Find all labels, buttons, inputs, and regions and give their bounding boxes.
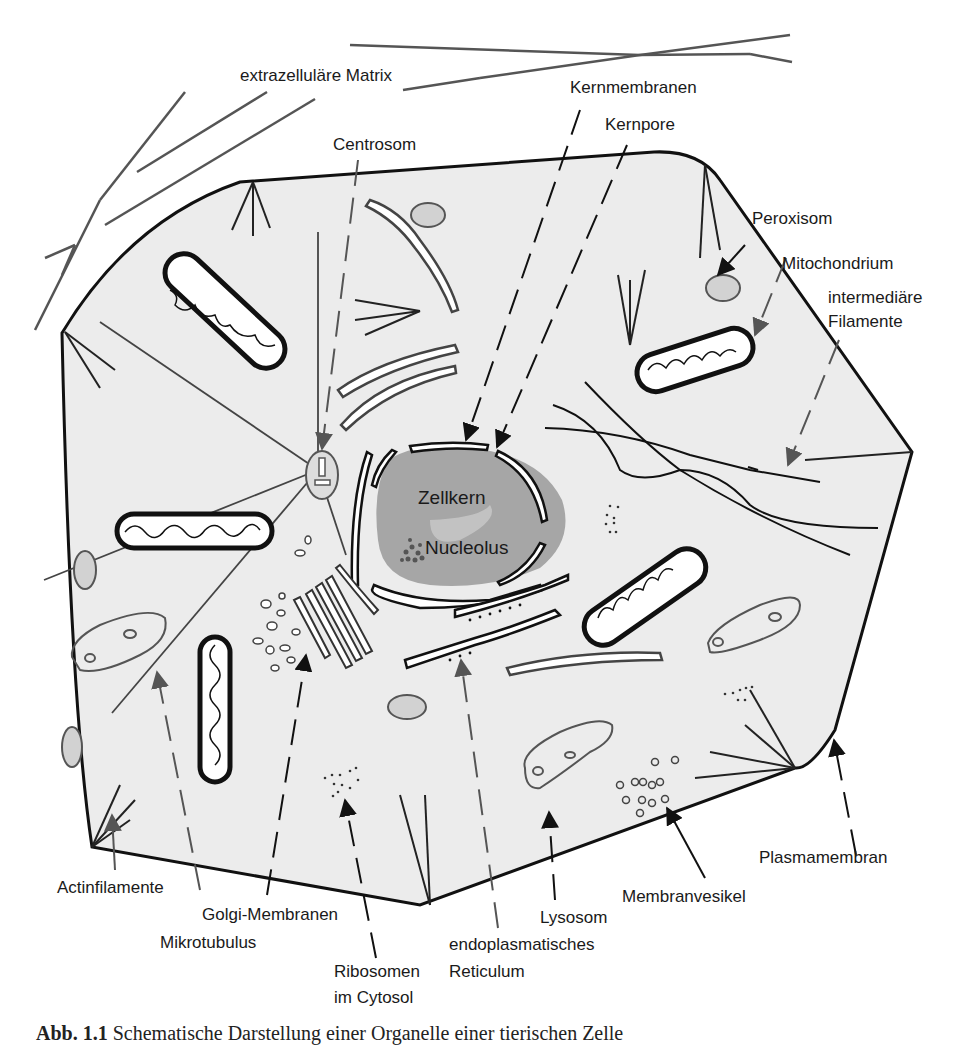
label-membrane-vesicle: Membranvesikel <box>622 887 746 907</box>
label-extracellular-matrix: extrazelluläre Matrix <box>240 66 392 86</box>
label-intermediate-filaments-1: intermediäre <box>828 288 923 308</box>
label-actin-filaments: Actinfilamente <box>57 878 164 898</box>
label-microtubule: Mikrotubulus <box>160 933 256 953</box>
label-nuclear-membranes: Kernmembranen <box>570 78 697 98</box>
label-lysosome: Lysosom <box>540 908 607 928</box>
label-peroxisome: Peroxisom <box>752 209 832 229</box>
caption-text: Schematische Darstellung einer Organelle… <box>113 1022 624 1044</box>
label-nuclear-pore: Kernpore <box>605 115 675 135</box>
label-nucleolus: Nucleolus <box>425 538 508 558</box>
mitochondrion-bottom-left <box>200 637 230 782</box>
label-er-1: endoplasmatisches <box>449 935 595 955</box>
label-golgi-membranes: Golgi-Membranen <box>202 905 338 925</box>
label-centrosome: Centrosom <box>333 135 416 155</box>
figure-caption: Abb. 1.1 Schematische Darstellung einer … <box>36 1022 623 1045</box>
centrosome <box>306 451 338 499</box>
label-mitochondrion: Mitochondrium <box>782 254 894 274</box>
label-intermediate-filaments-2: Filamente <box>828 312 903 332</box>
mitochondrion-left <box>117 514 272 548</box>
label-nucleus: Zellkern <box>418 488 486 508</box>
caption-prefix: Abb. 1.1 <box>36 1022 108 1044</box>
label-ribosomes-1: Ribosomen <box>334 962 420 982</box>
label-ribosomes-2: im Cytosol <box>334 988 413 1008</box>
label-plasma-membrane: Plasmamembran <box>759 848 888 868</box>
label-er-2: Reticulum <box>449 962 525 982</box>
